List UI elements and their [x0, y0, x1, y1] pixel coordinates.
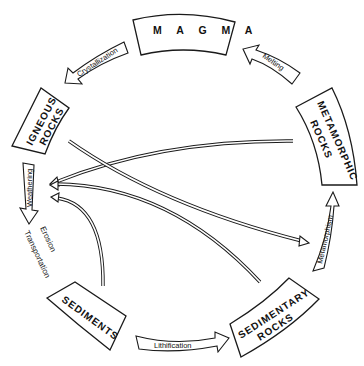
lithification-label: Lithification [154, 341, 192, 350]
shortcut-igneous-to-metamorphic [69, 141, 309, 246]
melting-arrow: Melting [243, 45, 300, 84]
shortcut-metamorphic-to-igneous [50, 141, 293, 186]
rock-cycle-diagram: M A G M A Crystallization Melting IGNEOU… [0, 0, 364, 366]
shortcut-sediments-to-igneous [51, 193, 103, 286]
crystallization-label: Crystallization [75, 46, 119, 79]
magma-label: M A G M A [153, 24, 258, 36]
shortcut-sedimentary-to-igneous [50, 181, 260, 282]
sedimentary-rocks-box: SEDIMENTARY ROCKS [230, 278, 319, 357]
magma-box: M A G M A [133, 14, 258, 55]
sediments-box: SEDIMENTS [47, 282, 126, 350]
erosion-label: Erosion [38, 225, 58, 253]
metamorphism-label: Metamorphism [315, 214, 335, 264]
weathering-arrow: Weathering [20, 163, 38, 224]
crystallization-arrow: Crystallization [65, 42, 128, 84]
weathering-label: Weathering [25, 169, 34, 207]
metamorphic-rocks-box: METAMORPHIC ROCKS [296, 88, 360, 185]
igneous-rocks-box: IGNEOUS ROCKS [12, 88, 69, 154]
lithification-arrow: Lithification [136, 332, 229, 352]
metamorphism-arrow: Metamorphism [313, 192, 339, 271]
